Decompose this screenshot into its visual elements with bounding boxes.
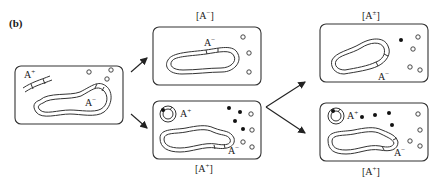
- filled-circle-icon: [373, 113, 377, 117]
- filled-circle-icon: [227, 106, 231, 110]
- arrow-down-icon: [131, 114, 147, 128]
- open-circle-icon: [247, 70, 251, 74]
- diagram-canvas: (b) A+ A− [A−]: [0, 0, 439, 184]
- filled-circle-icon: [360, 115, 364, 119]
- open-circle-icon: [411, 47, 415, 51]
- open-circle-icon: [241, 140, 245, 144]
- panel-label: (b): [9, 17, 23, 30]
- arrow-up-icon: [131, 58, 147, 72]
- open-circle-icon: [418, 128, 422, 132]
- top-middle-cell: A−: [153, 27, 261, 85]
- top-right-cell: A−: [320, 24, 428, 82]
- start-cell: A+ A−: [15, 66, 123, 124]
- open-circle-icon: [241, 35, 245, 39]
- bottom-middle-cell: A+ A−: [153, 101, 261, 159]
- arrow-up-icon: [266, 82, 305, 107]
- open-circle-icon: [416, 112, 420, 116]
- open-circle-icon: [418, 68, 422, 72]
- top-right-title: [A±]: [362, 9, 380, 21]
- open-circle-icon: [109, 68, 113, 72]
- bottom-right-title: [A+]: [362, 165, 380, 177]
- open-circle-icon: [408, 65, 412, 69]
- bottom-right-cell: A+ A−: [320, 103, 428, 161]
- filled-circle-icon: [387, 111, 391, 115]
- open-circle-icon: [249, 112, 253, 116]
- open-circle-icon: [416, 35, 420, 39]
- filled-circle-icon: [390, 123, 394, 127]
- open-circle-icon: [418, 144, 422, 148]
- filled-circle-icon: [233, 119, 237, 123]
- open-circle-icon: [105, 77, 109, 81]
- top-middle-title: [A−]: [196, 9, 214, 21]
- open-circle-icon: [250, 145, 254, 149]
- filled-circle-icon: [238, 110, 242, 114]
- filled-circle-icon: [399, 38, 403, 42]
- open-circle-icon: [87, 70, 91, 74]
- arrow-down-icon: [266, 107, 305, 133]
- open-circle-icon: [408, 139, 412, 143]
- open-circle-icon: [247, 51, 251, 55]
- filled-circle-icon: [241, 127, 245, 131]
- bottom-middle-title: [A+]: [195, 162, 213, 174]
- open-circle-icon: [250, 128, 254, 132]
